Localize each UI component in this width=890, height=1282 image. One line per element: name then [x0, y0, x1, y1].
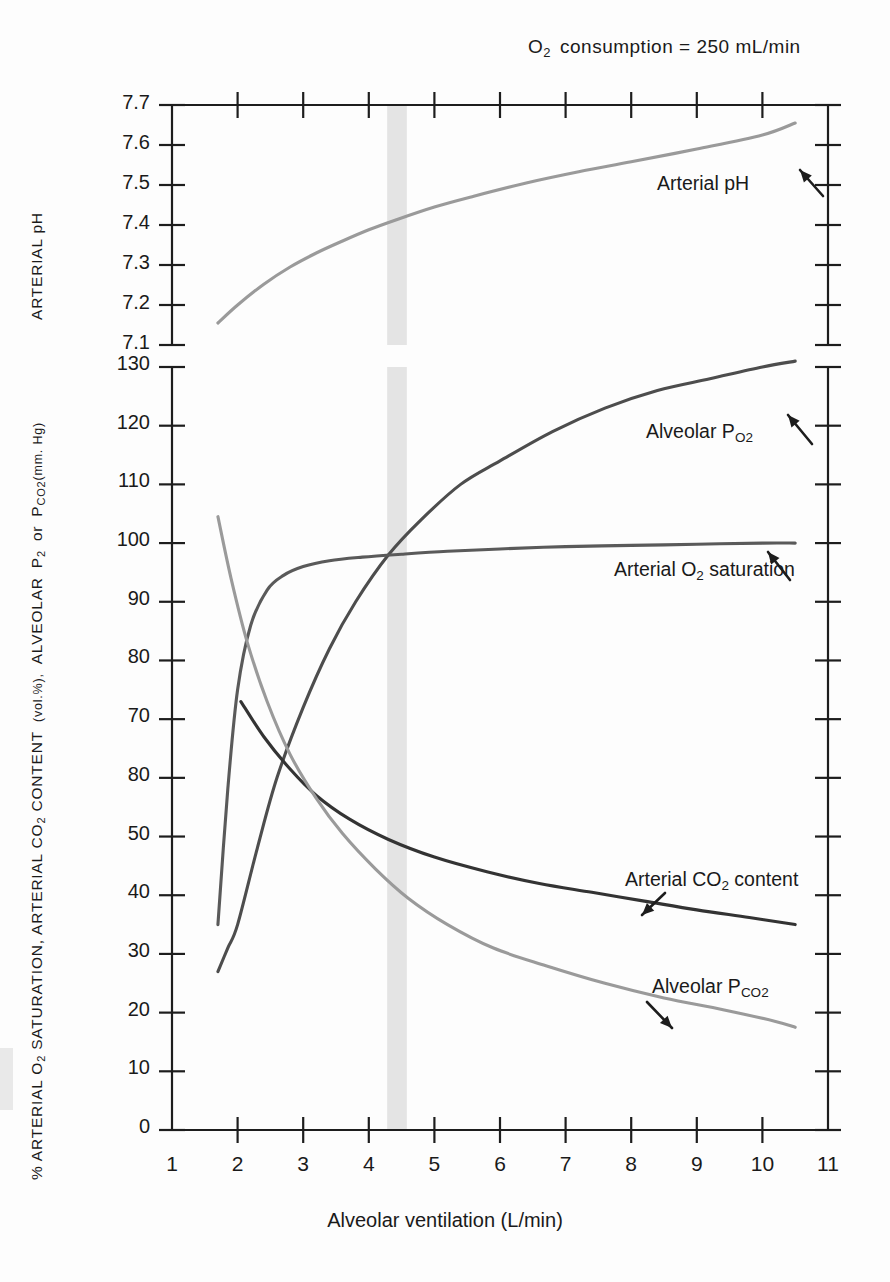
label-subscript: 2 — [696, 568, 704, 583]
y-tick-label-ph: 7.7 — [62, 91, 150, 114]
y-tick-label-ph: 7.3 — [62, 251, 150, 274]
y-tick-label-ph: 7.2 — [62, 291, 150, 314]
x-tick-label: 10 — [732, 1152, 792, 1176]
y-tick-label-ph: 7.5 — [62, 171, 150, 194]
y-tick-label-main: 20 — [62, 998, 150, 1021]
label-text: Alveolar P — [652, 975, 741, 997]
y-tick-label-main: 120 — [62, 411, 150, 434]
label-alveolar-po2: Alveolar PO2 — [646, 420, 753, 445]
label-alveolar-pco2: Alveolar PCO2 — [652, 975, 769, 1000]
label-text-rest: content — [729, 868, 798, 890]
y-tick-label-main: 10 — [62, 1056, 150, 1079]
label-text: Arterial CO — [625, 868, 721, 890]
x-tick-label: 3 — [273, 1152, 333, 1176]
x-tick-label: 4 — [339, 1152, 399, 1176]
y-tick-label-ph: 7.1 — [62, 331, 150, 354]
y-ticks-main — [159, 367, 841, 1130]
label-text-rest: saturation — [704, 558, 795, 580]
label-subscript: O2 — [735, 430, 753, 445]
label-text: Arterial pH — [657, 172, 749, 194]
x-tick-label: 8 — [601, 1152, 661, 1176]
y-tick-label-main: 70 — [62, 704, 150, 727]
x-tick-label: 2 — [208, 1152, 268, 1176]
curve-arterial-ph — [218, 123, 795, 323]
y-tick-label-main: 30 — [62, 939, 150, 962]
y-tick-label-main: 50 — [62, 822, 150, 845]
curve-alveolar-pco2 — [218, 517, 795, 1028]
x-tick-label: 11 — [798, 1152, 858, 1176]
y-tick-label-main: 40 — [62, 880, 150, 903]
y-tick-label-main: 80 — [62, 645, 150, 668]
arrow-alveolar-po2 — [788, 415, 812, 444]
y-tick-label-main: 130 — [62, 352, 150, 375]
y-tick-label-main: 110 — [62, 469, 150, 492]
respiratory-physiology-figure: O2consumption = 250 mL/min % ARTERIAL O2… — [0, 0, 890, 1282]
y-tick-label-ph: 7.6 — [62, 131, 150, 154]
y-tick-label-main: 0 — [62, 1115, 150, 1138]
label-text: Arterial O — [614, 558, 696, 580]
label-subscript: CO2 — [741, 985, 769, 1000]
x-tick-label: 1 — [142, 1152, 202, 1176]
x-tick-label: 6 — [470, 1152, 530, 1176]
y-tick-label-main: 80 — [62, 763, 150, 786]
arrow-alveolar-pco2 — [647, 1002, 672, 1028]
x-tick-label: 7 — [536, 1152, 596, 1176]
label-arterial-o2-saturation: Arterial O2 saturation — [614, 558, 795, 583]
arrow-arterial-ph — [800, 170, 823, 196]
x-tick-label: 9 — [667, 1152, 727, 1176]
label-subscript: 2 — [721, 878, 729, 893]
y-tick-label-main: 90 — [62, 587, 150, 610]
label-arterial-co2-content: Arterial CO2 content — [625, 868, 798, 893]
label-text: Alveolar P — [646, 420, 735, 442]
y-tick-label-ph: 7.4 — [62, 211, 150, 234]
normal-range-band — [387, 105, 407, 1130]
label-arterial-ph: Arterial pH — [657, 172, 749, 195]
y-tick-label-main: 100 — [62, 528, 150, 551]
x-tick-label: 5 — [404, 1152, 464, 1176]
